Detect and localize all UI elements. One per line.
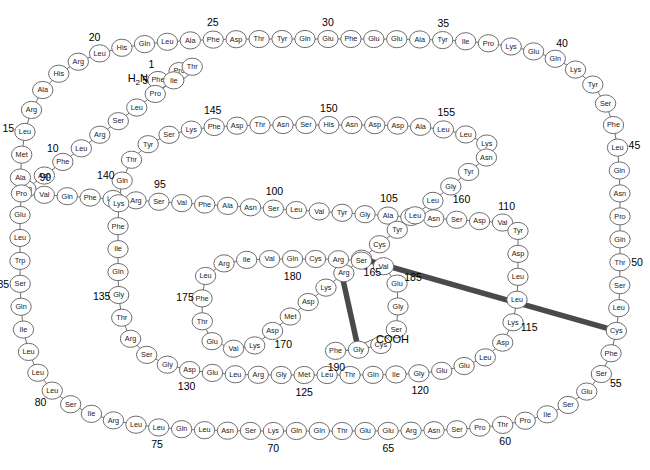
residue-22-gln[interactable]: Gln (134, 36, 154, 53)
residue-95-ser[interactable]: Ser (149, 193, 169, 210)
residue-48-pro[interactable]: Pro (610, 208, 630, 225)
residue-121-ile[interactable]: Ile (386, 366, 406, 383)
residue-102-val[interactable]: Val (309, 203, 329, 220)
residue-169-met[interactable]: Met (280, 308, 300, 325)
residue-132-ser[interactable]: Ser (137, 346, 157, 363)
residue-151-asn[interactable]: Asn (342, 116, 362, 133)
residue-18-his[interactable]: His (49, 65, 69, 82)
residue-190-phe[interactable]: Phe (325, 342, 345, 359)
residue-5-pro[interactable]: Pro (145, 85, 165, 102)
residue-117-leu[interactable]: Leu (475, 349, 495, 366)
residue-127-arg[interactable]: Arg (248, 366, 268, 383)
residue-145-phe[interactable]: Phe (204, 118, 224, 135)
residue-47-asn[interactable]: Asn (610, 185, 630, 202)
residue-182-arg[interactable]: Arg (328, 251, 348, 268)
residue-63-asn[interactable]: Asn (424, 422, 444, 439)
residue-104-gly[interactable]: Gly (355, 206, 375, 223)
residue-120-gly[interactable]: Gly (409, 365, 429, 382)
residue-128-leu[interactable]: Leu (225, 366, 245, 383)
residue-141-thr[interactable]: Thr (121, 151, 141, 168)
residue-155-leu[interactable]: Leu (433, 121, 453, 138)
residue-35-tyr[interactable]: Tyr (432, 31, 452, 48)
residue-74-gln[interactable]: Gln (171, 421, 191, 438)
residue-149-ser[interactable]: Ser (296, 116, 316, 133)
residue-108-ser[interactable]: Ser (446, 211, 466, 228)
residue-61-pro[interactable]: Pro (470, 419, 490, 436)
residue-67-thr[interactable]: Thr (332, 422, 352, 439)
residue-42-tyr[interactable]: Tyr (583, 76, 603, 93)
residue-100-ser[interactable]: Ser (263, 200, 283, 217)
residue-51-ser[interactable]: Ser (610, 277, 630, 294)
residue-114-leu[interactable]: Leu (507, 291, 527, 308)
residue-10-phe[interactable]: Phe (53, 153, 73, 170)
residue-122-gln[interactable]: Gln (363, 366, 383, 383)
residue-144-lys[interactable]: Lys (181, 121, 201, 138)
residue-181-cys[interactable]: Cys (305, 250, 325, 267)
residue-89-pro[interactable]: Pro (11, 185, 31, 202)
residue-135-gly[interactable]: Gly (108, 286, 128, 303)
residue-16-arg[interactable]: Arg (21, 101, 41, 118)
residue-152-asp[interactable]: Asp (365, 117, 385, 134)
residue-142-tyr[interactable]: Tyr (138, 136, 158, 153)
residue-112-asp[interactable]: Asp (508, 245, 528, 262)
residue-50-thr[interactable]: Thr (610, 254, 630, 271)
residue-172-val[interactable]: Val (223, 340, 243, 357)
residue-82-leu[interactable]: Leu (18, 343, 38, 360)
residue-7-ser[interactable]: Ser (108, 113, 128, 130)
residue-101-leu[interactable]: Leu (286, 201, 306, 218)
residue-24-ala[interactable]: Ala (180, 32, 200, 49)
residue-49-gln[interactable]: Gln (610, 231, 630, 248)
residue-179-val[interactable]: Val (259, 250, 279, 267)
residue-40-gln[interactable]: Gln (545, 50, 565, 67)
residue-168-asp[interactable]: Asp (298, 293, 318, 310)
residue-46-gln[interactable]: Gln (609, 162, 629, 179)
residue-177-arg[interactable]: Arg (214, 255, 234, 272)
residue-27-thr[interactable]: Thr (249, 30, 269, 47)
residue-175-phe[interactable]: Phe (192, 290, 212, 307)
residue-55-ser[interactable]: Ser (591, 365, 611, 382)
residue-43-ser[interactable]: Ser (595, 95, 615, 112)
residue-39-glu[interactable]: Glu (523, 43, 543, 60)
residue-78-ile[interactable]: Ile (81, 405, 101, 422)
residue-131-gly[interactable]: Gly (157, 356, 177, 373)
residue-133-arg[interactable]: Arg (120, 330, 140, 347)
residue-73-leu[interactable]: Leu (194, 422, 214, 439)
residue-29-gln[interactable]: Gln (295, 30, 315, 47)
residue-33-glu[interactable]: Glu (387, 31, 407, 48)
residue-20-leu[interactable]: Leu (89, 45, 109, 62)
residue-173-glu[interactable]: Glu (202, 333, 222, 350)
residue-129-glu[interactable]: Glu (202, 364, 222, 381)
residue-130-asp[interactable]: Asp (179, 361, 199, 378)
residue-148-asn[interactable]: Asn (273, 116, 293, 133)
residue-83-ile[interactable]: Ile (13, 321, 33, 338)
residue-162-leu[interactable]: Leu (405, 207, 425, 224)
residue-60-thr[interactable]: Thr (492, 416, 512, 433)
residue-99-asn[interactable]: Asn (240, 199, 260, 216)
residue-76-leu[interactable]: Leu (126, 416, 146, 433)
residue-85-ser[interactable]: Ser (10, 275, 30, 292)
residue-72-asn[interactable]: Asn (217, 422, 237, 439)
residue-91-gln[interactable]: Gln (57, 188, 77, 205)
residue-14-met[interactable]: Met (12, 146, 32, 163)
residue-8-arg[interactable]: Arg (90, 126, 110, 143)
residue-164-cys[interactable]: Cys (369, 236, 389, 253)
residue-44-phe[interactable]: Phe (603, 116, 623, 133)
residue-13-ala[interactable]: Ala (10, 169, 30, 186)
residue-19-arg[interactable]: Arg (68, 53, 88, 70)
residue-97-phe[interactable]: Phe (194, 196, 214, 213)
residue-186-gly[interactable]: Gly (388, 298, 408, 315)
residue-71-ser[interactable]: Ser (240, 422, 260, 439)
residue-153-asp[interactable]: Asp (388, 117, 408, 134)
residue-81-leu[interactable]: Leu (28, 364, 48, 381)
residue-65-glu[interactable]: Glu (378, 422, 398, 439)
residue-125-met[interactable]: Met (294, 366, 314, 383)
residue-21-his[interactable]: His (112, 39, 132, 56)
residue-70-lys[interactable]: Lys (263, 422, 283, 439)
residue-161-leu[interactable]: Leu (423, 192, 443, 209)
residue-139-lys[interactable]: Lys (109, 195, 129, 212)
residue-64-arg[interactable]: Arg (401, 422, 421, 439)
residue-134-thr[interactable]: Thr (112, 309, 132, 326)
residue-92-phe[interactable]: Phe (80, 189, 100, 206)
residue-140-gln[interactable]: Gln (112, 172, 132, 189)
residue-25-phe[interactable]: Phe (203, 31, 223, 48)
